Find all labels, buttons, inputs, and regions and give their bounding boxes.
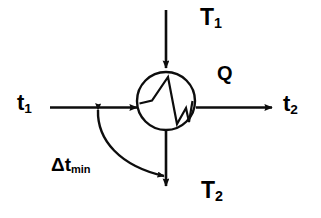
approach-temperature-label: Δtmin xyxy=(51,155,91,174)
diagram-vector-layer xyxy=(0,0,321,218)
hot-inlet-label: T1 xyxy=(200,6,222,29)
cold-outlet-label: t2 xyxy=(283,93,298,115)
cold-inlet-label: t1 xyxy=(17,92,32,114)
hot-outlet-label: T2 xyxy=(201,179,223,202)
diagram-canvas: T1 T2 t1 t2 Q Δtmin xyxy=(0,0,321,218)
heat-duty-label: Q xyxy=(217,63,233,83)
